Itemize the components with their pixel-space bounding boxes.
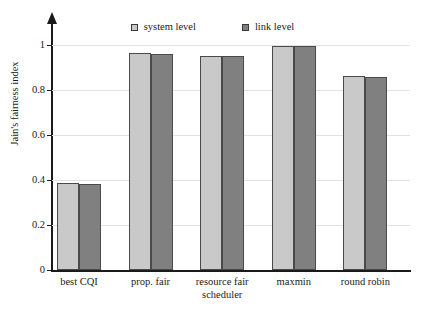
bar-link-level [222, 56, 244, 270]
legend-entry-system-level: system level [131, 22, 196, 33]
bar-system-level [129, 53, 151, 270]
bar-link-level [79, 184, 101, 270]
legend-swatch-square-icon [242, 24, 249, 31]
y-tick-label: 0.6 [19, 130, 45, 141]
plot-area [52, 45, 410, 270]
bar-group [272, 45, 316, 270]
legend-label-link-level: link level [255, 22, 294, 33]
bar-link-level [151, 54, 173, 270]
y-tick-label: 1 [19, 40, 45, 51]
bar-group [57, 45, 101, 270]
y-tick-mark [47, 270, 56, 271]
bar-group [343, 45, 387, 270]
legend-swatch-square-icon [131, 24, 138, 31]
bar-link-level [294, 46, 316, 270]
y-tick-label: 0.4 [19, 175, 45, 186]
bar-system-level [57, 183, 79, 270]
chart-legend: system level link level [0, 18, 425, 36]
bar-group [129, 45, 173, 270]
x-axis-category-label-line: round robin [310, 276, 420, 289]
y-tick-label: 0 [19, 265, 45, 276]
legend-label-system-level: system level [144, 22, 196, 33]
bar-group [200, 45, 244, 270]
bar-link-level [365, 77, 387, 270]
y-tick-label: 0.2 [19, 220, 45, 231]
y-tick-label: 0.8 [19, 85, 45, 96]
x-axis-line [51, 270, 411, 272]
fairness-index-bar-chart: system level link level Jain's fairness … [0, 0, 425, 317]
x-axis-category-label: round robin [310, 276, 420, 289]
legend-entry-link-level: link level [242, 22, 294, 33]
bar-system-level [272, 46, 294, 270]
x-axis-category-label-line: scheduler [167, 289, 277, 302]
y-axis-title: Jain's fairness index [9, 29, 20, 179]
bar-system-level [343, 76, 365, 270]
bar-system-level [200, 56, 222, 270]
